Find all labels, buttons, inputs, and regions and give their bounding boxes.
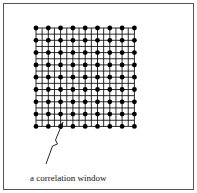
grid-dot: [107, 112, 112, 117]
grid-dot: [71, 50, 76, 55]
grid-dot: [71, 87, 76, 92]
grid-dot: [71, 124, 76, 129]
grid-dot: [58, 26, 63, 31]
grid-dot: [132, 124, 137, 129]
grid-dot: [58, 112, 63, 117]
grid-dot: [83, 99, 88, 104]
grid-dot: [58, 50, 63, 55]
grid-dot: [120, 50, 125, 55]
grid-dot: [83, 38, 88, 43]
grid-dot: [34, 63, 39, 68]
grid-dot: [107, 26, 112, 31]
grid-dots: [34, 26, 137, 129]
grid-dot: [71, 112, 76, 117]
grid-dot: [120, 26, 125, 31]
grid-dot: [71, 99, 76, 104]
grid-dot: [83, 50, 88, 55]
grid-dot: [120, 124, 125, 129]
grid-dot: [46, 112, 51, 117]
grid-dot: [34, 87, 39, 92]
grid-dot: [34, 75, 39, 80]
grid-dot: [58, 63, 63, 68]
grid-dot: [120, 99, 125, 104]
grid-dot: [132, 63, 137, 68]
grid-dot: [95, 87, 100, 92]
correlation-grid-diagram: [0, 0, 197, 193]
grid-dot: [83, 112, 88, 117]
grid-dot: [132, 38, 137, 43]
grid-dot: [95, 124, 100, 129]
grid-dot: [83, 124, 88, 129]
grid-dot: [71, 63, 76, 68]
grid-dot: [46, 26, 51, 31]
grid-dot: [107, 38, 112, 43]
grid-dot: [132, 26, 137, 31]
grid-dot: [46, 63, 51, 68]
grid-dot: [34, 50, 39, 55]
grid-dot: [46, 87, 51, 92]
grid-dot: [46, 38, 51, 43]
grid-dot: [71, 75, 76, 80]
grid-dot: [120, 112, 125, 117]
grid-dot: [34, 124, 39, 129]
grid-dot: [34, 38, 39, 43]
grid-dot: [132, 87, 137, 92]
grid-dot: [34, 99, 39, 104]
grid-dot: [46, 50, 51, 55]
grid-dot: [120, 87, 125, 92]
grid-dot: [71, 26, 76, 31]
grid-dot: [120, 75, 125, 80]
grid-dot: [107, 63, 112, 68]
grid-dot: [34, 112, 39, 117]
grid-dot: [58, 38, 63, 43]
grid-dot: [107, 99, 112, 104]
grid-dot: [46, 75, 51, 80]
grid-dot: [120, 38, 125, 43]
grid-dot: [95, 26, 100, 31]
grid-dot: [107, 75, 112, 80]
grid-dot: [58, 99, 63, 104]
caption-label: a correlation window: [30, 173, 106, 183]
grid-dot: [107, 50, 112, 55]
grid-dot: [83, 63, 88, 68]
grid-dot: [83, 75, 88, 80]
grid-dot: [34, 26, 39, 31]
grid-dot: [95, 50, 100, 55]
grid-dot: [46, 99, 51, 104]
grid-dot: [46, 124, 51, 129]
grid-dot: [95, 75, 100, 80]
grid-dot: [132, 99, 137, 104]
grid-dot: [95, 38, 100, 43]
grid-dot: [83, 87, 88, 92]
grid-dot: [132, 75, 137, 80]
grid-dot: [95, 99, 100, 104]
grid-dot: [58, 87, 63, 92]
grid-dot: [95, 112, 100, 117]
grid-dot: [132, 50, 137, 55]
grid-dot: [120, 63, 125, 68]
grid-dot: [132, 112, 137, 117]
grid-dot: [95, 63, 100, 68]
grid-dot: [71, 38, 76, 43]
grid-dot: [83, 26, 88, 31]
grid-dot: [58, 75, 63, 80]
grid-dot: [107, 87, 112, 92]
grid-dot: [107, 124, 112, 129]
